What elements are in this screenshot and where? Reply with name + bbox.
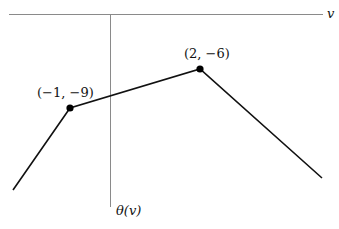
- horizontal-axis-label: v: [327, 6, 335, 21]
- vertical-axis-label: θ(v): [116, 203, 141, 218]
- point-label-left: (−1, −9): [37, 85, 94, 100]
- point-label-right: (2, −6): [184, 46, 230, 61]
- breakpoint-right: [196, 65, 203, 72]
- diagram-canvas: (−1, −9) (2, −6) v θ(v): [0, 0, 339, 229]
- breakpoint-left: [66, 104, 73, 111]
